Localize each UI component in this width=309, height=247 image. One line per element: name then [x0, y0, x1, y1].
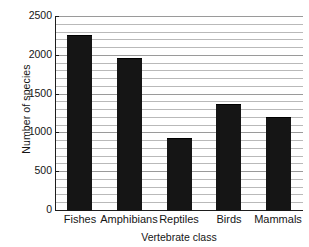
y-axis-line [55, 16, 56, 211]
y-axis-title: Number of species [20, 39, 32, 179]
y-axis-tick-label: 1500 [12, 88, 52, 99]
gridline-minor [56, 32, 303, 33]
gridline-minor [56, 39, 303, 40]
bar [167, 138, 192, 211]
gridline-minor [56, 109, 303, 110]
x-axis-title: Vertebrate class [55, 231, 303, 243]
y-axis-tick-label: 500 [12, 165, 52, 176]
y-axis-tick-label: 2500 [12, 10, 52, 21]
x-axis-tick-label: Mammals [241, 213, 309, 226]
gridline-minor [56, 86, 303, 87]
bar [117, 58, 142, 211]
gridline-minor [56, 101, 303, 102]
gridline-major [56, 55, 303, 56]
chart-top-margin [0, 0, 309, 8]
bar [216, 104, 241, 211]
gridline-major [56, 16, 303, 17]
gridline-major [56, 94, 303, 95]
gridline-minor [56, 24, 303, 25]
bar [266, 117, 291, 211]
gridline-minor [56, 78, 303, 79]
y-axis-tick-label: 2000 [12, 49, 52, 60]
y-axis-tick-label: 1000 [12, 126, 52, 137]
bar-chart: Number of species 05001000150020002500 F… [0, 0, 309, 247]
gridline-minor [56, 63, 303, 64]
gridline-minor [56, 47, 303, 48]
bar [67, 35, 92, 211]
gridline-minor [56, 70, 303, 71]
